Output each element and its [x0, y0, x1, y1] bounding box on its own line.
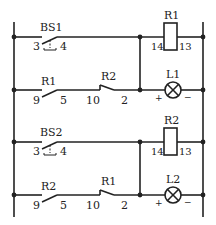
l1-minus: −: [184, 92, 192, 102]
l2-plus: +: [155, 198, 163, 208]
r1-nc-contact-label: R1: [101, 175, 116, 188]
bs1-pushbutton-icon: [44, 48, 56, 50]
l1-plus: +: [155, 93, 163, 103]
r2-no-contact-label: R2: [41, 180, 56, 193]
r1-nc-contact-blade: [100, 190, 114, 195]
r2-nc-contact-label: R2: [101, 70, 116, 83]
r2-coil-terminal-13: 13: [179, 146, 192, 157]
r1-no-terminal-9: 9: [33, 94, 40, 107]
bs2-terminal-3: 3: [33, 145, 40, 158]
l2-label: L2: [166, 173, 180, 186]
bs1-terminal-4: 4: [60, 40, 67, 53]
r1-coil-terminal-13: 13: [179, 41, 192, 52]
bs2-pushbutton-icon: [44, 153, 56, 155]
r1-no-contact-label: R1: [41, 75, 56, 88]
r2-no-terminal-9: 9: [33, 199, 40, 212]
r2-coil-terminal-14: 14: [151, 146, 164, 157]
ladder-diagram: BS1 3 4 R1 14 13 R1 9 5 R2 10 2 L1 + − B…: [0, 0, 216, 225]
r1-nc-terminal-2: 2: [121, 199, 128, 212]
r2-nc-contact-blade: [100, 85, 114, 90]
r2-no-contact-blade: [42, 195, 57, 202]
bs2-label: BS2: [40, 126, 63, 139]
bs2-terminal-4: 4: [60, 145, 67, 158]
bs1-terminal-3: 3: [33, 40, 40, 53]
r1-nc-terminal-10: 10: [86, 199, 100, 212]
r1-no-contact-blade: [42, 90, 57, 97]
r2-nc-terminal-10: 10: [86, 94, 100, 107]
l2-minus: −: [184, 197, 192, 207]
r2-no-terminal-5: 5: [60, 199, 67, 212]
r1-coil-label: R1: [164, 9, 179, 22]
r2-nc-terminal-2: 2: [121, 94, 128, 107]
r1-no-terminal-5: 5: [60, 94, 67, 107]
l1-label: L1: [166, 68, 180, 81]
r2-coil-icon: [164, 128, 177, 155]
r1-coil-icon: [164, 23, 177, 50]
bs1-label: BS1: [40, 21, 63, 34]
r2-coil-label: R2: [164, 114, 179, 127]
r1-coil-terminal-14: 14: [151, 41, 164, 52]
